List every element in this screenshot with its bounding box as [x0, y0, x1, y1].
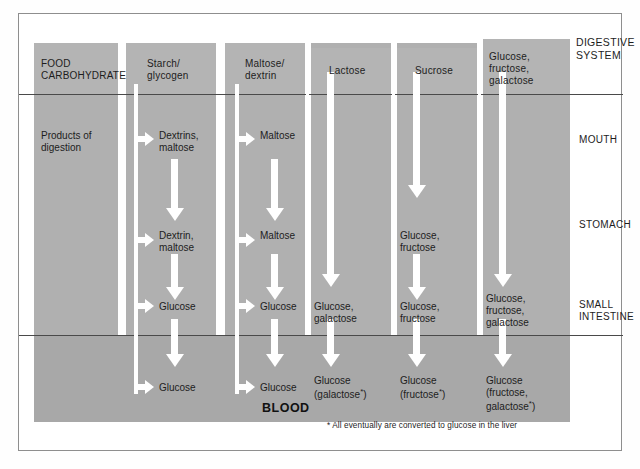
cell-lactose-blood-paren: ): [363, 389, 366, 400]
column-header-sucrose: Sucrose: [415, 65, 485, 77]
cell-maltose-small-intestine: Glucose: [260, 301, 322, 313]
column-header-food-carbohydrate: FOOD CARBOHYDRATE: [41, 58, 125, 82]
column-gutter-1: [118, 43, 126, 348]
cell-lactose-blood-line1: Glucose: [314, 375, 351, 386]
cell-sucrose-blood-line2: (fructose: [400, 389, 439, 400]
column-header-starch-glycogen: Starch/ glycogen: [147, 58, 217, 82]
stage-label-small-intestine: SMALL INTESTINE: [579, 299, 640, 323]
cell-lactose-blood-line2: (galactose: [314, 389, 360, 400]
footnote-text: * All eventually are converted to glucos…: [327, 421, 571, 430]
rule-top-of-mouth: [19, 94, 623, 95]
cell-starch-blood: Glucose: [159, 382, 221, 394]
cell-maltose-mouth: Maltose: [260, 130, 322, 142]
rule-blood-boundary: [19, 335, 623, 336]
arrow-right-maltose-stomach: [238, 233, 256, 247]
diagram-frame: FOOD CARBOHYDRATE Starch/ glycogen Malto…: [18, 13, 622, 451]
arrow-down-maltose-mouth-to-stomach: [266, 159, 284, 221]
arrow-right-maltose-small-intestine: [238, 299, 256, 313]
arrow-right-starch-small-intestine: [137, 299, 155, 313]
cell-starch-small-intestine: Glucose: [159, 301, 221, 313]
diagram-canvas: FOOD CARBOHYDRATE Starch/ glycogen Malto…: [0, 0, 640, 469]
cell-starch-mouth: Dextrins, maltose: [159, 130, 221, 154]
arrow-right-starch-blood: [137, 380, 155, 394]
arrow-down-starch-stomach-to-si: [166, 254, 184, 300]
arrow-right-starch-stomach: [137, 233, 155, 247]
arrow-down-maltose-si-to-blood: [266, 319, 284, 367]
column-header-glucose-fructose-galactose: Glucose, fructose, galactose: [489, 51, 569, 86]
arrow-down-maltose-stomach-to-si: [266, 254, 284, 300]
cell-lactose-blood: Glucose (galactose*): [314, 375, 394, 401]
cell-monosaccharide-blood-line3: galactose: [486, 401, 529, 412]
stage-label-mouth: MOUTH: [579, 134, 640, 146]
cell-sucrose-stomach: Glucose, fructose: [400, 230, 474, 254]
cell-starch-stomach: Dextrin, maltose: [159, 230, 221, 254]
arrow-right-maltose-blood: [238, 380, 256, 394]
column-header-lactose: Lactose: [329, 65, 399, 77]
arrow-down-sucrose-to-stomach: [408, 72, 426, 198]
arrow-down-sucrose-si-to-blood: [408, 319, 426, 367]
arrow-down-lactose-si-to-blood: [322, 319, 340, 367]
cell-monosaccharide-blood: Glucose (fructose, galactose*): [486, 375, 570, 413]
cell-sucrose-blood-paren: ): [442, 389, 445, 400]
cell-food-carbohydrate-mouth: Products of digestion: [41, 130, 131, 154]
arrow-down-sucrose-stomach-to-si: [408, 254, 426, 300]
feed-line-monosaccharide: [478, 94, 481, 335]
cell-sucrose-blood-line1: Glucose: [400, 375, 437, 386]
arrow-down-lactose-to-small-intestine: [322, 72, 340, 287]
arrow-down-monosaccharide-to-small-intestine: [494, 72, 512, 287]
stage-label-stomach: STOMACH: [579, 219, 640, 231]
column-header-maltose-dextrin: Maltose/ dextrin: [245, 58, 315, 82]
cell-lactose-small-intestine: Glucose, galactose: [314, 301, 388, 325]
digestive-system-header: DIGESTIVE SYSTEM: [576, 36, 640, 62]
arrow-down-starch-si-to-blood: [166, 319, 184, 367]
arrow-right-starch-mouth: [137, 132, 155, 146]
blood-label: BLOOD: [262, 401, 310, 415]
cell-monosaccharide-blood-line1: Glucose: [486, 375, 523, 386]
cell-sucrose-blood: Glucose (fructose*): [400, 375, 480, 401]
arrow-down-starch-mouth-to-stomach: [166, 159, 184, 221]
arrow-right-maltose-mouth: [238, 132, 256, 146]
cell-monosaccharide-blood-line2: (fructose,: [486, 387, 528, 398]
cell-sucrose-small-intestine: Glucose, fructose: [400, 301, 474, 325]
cell-maltose-blood: Glucose: [260, 382, 322, 394]
feed-line-sucrose: [392, 94, 395, 335]
cell-maltose-stomach: Maltose: [260, 230, 322, 242]
cell-monosaccharide-small-intestine: Glucose, fructose, galactose: [486, 293, 566, 328]
cell-monosaccharide-blood-paren: ): [532, 401, 535, 412]
